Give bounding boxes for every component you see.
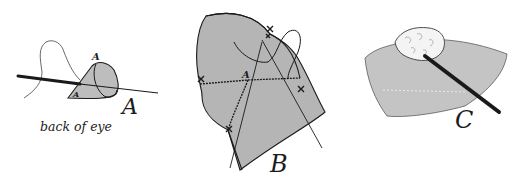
cotton-swab-drawing: C — [345, 0, 525, 180]
caption-back-of-eye: back of eye — [40, 119, 112, 134]
panel-a-illustration: A A A back of eye — [0, 0, 175, 180]
tissue-flap — [197, 13, 325, 170]
eye-cone-needle-drawing: A A A back of eye — [0, 0, 175, 180]
point-label-a: A — [241, 69, 250, 80]
panel-c-illustration: C — [345, 0, 525, 180]
point-label-a-bottom: A — [72, 89, 79, 99]
point-label-a-top: A — [91, 51, 100, 62]
panel-label-a: A — [120, 94, 138, 119]
panel-label-c: C — [455, 106, 473, 134]
sutured-flap-drawing: A B — [170, 0, 350, 180]
panel-b-illustration: A B — [170, 0, 350, 180]
needle-icon — [18, 76, 80, 84]
thread-icon — [24, 41, 80, 98]
panel-label-b: B — [269, 150, 288, 178]
